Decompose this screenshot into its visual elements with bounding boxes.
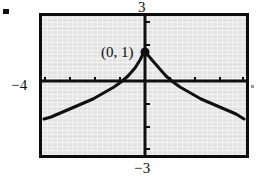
axis-label-top: 3 <box>138 0 146 15</box>
graph-figure: 3 −3 −4 (0, 1) <box>0 0 257 181</box>
corner-bullet-marker <box>3 9 9 14</box>
plot-canvas <box>42 16 246 155</box>
axis-label-bottom: −3 <box>134 161 150 176</box>
axis-label-left: −4 <box>11 78 27 93</box>
point-annotation-label: (0, 1) <box>101 45 134 60</box>
right-edge-artifact <box>251 85 254 88</box>
point-marker-0-1 <box>141 48 150 57</box>
plot-frame <box>39 13 249 158</box>
